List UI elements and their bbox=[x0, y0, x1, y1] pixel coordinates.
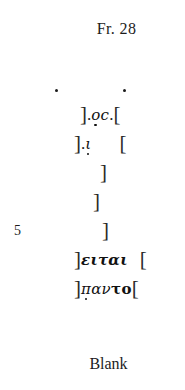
line-7-letters-bold: το bbox=[111, 280, 132, 298]
transcription-line-1: ].οc.[ bbox=[0, 100, 185, 129]
line-7-run: ]παντο[ bbox=[74, 274, 139, 304]
letter-lunate-sigma: c bbox=[101, 106, 110, 124]
line-7-letters-italic: αν bbox=[91, 280, 111, 298]
closing-bracket: ] bbox=[80, 102, 87, 126]
opening-bracket: [ bbox=[140, 247, 147, 271]
transcription-line-5: 5 ] bbox=[0, 216, 185, 245]
transcription-column: ].οc.[ ].ι[ ] ] 5 ] ]ειται[ ]παντο[ bbox=[0, 100, 185, 360]
transcription-line-4: ] bbox=[0, 187, 185, 216]
line-5-run: ] bbox=[102, 216, 109, 245]
line-4-run: ] bbox=[93, 187, 100, 216]
closing-bracket: ] bbox=[74, 276, 81, 300]
opening-bracket: [ bbox=[119, 131, 126, 155]
closing-bracket: ] bbox=[93, 189, 100, 213]
closing-bracket: ] bbox=[100, 160, 107, 184]
closing-bracket: ] bbox=[102, 218, 109, 242]
transcription-line-7: ]παντο[ bbox=[0, 274, 185, 303]
opening-bracket: [ bbox=[132, 276, 139, 300]
line-3-run: ] bbox=[100, 158, 107, 187]
ink-trace-dot-right bbox=[123, 89, 126, 92]
fragment-page: Fr. 28 ].οc.[ ].ι[ ] ] 5 ] ]ειται[ bbox=[0, 0, 185, 390]
closing-bracket: ] bbox=[74, 247, 81, 271]
line-1-run: ].οc.[ bbox=[80, 100, 121, 130]
closing-bracket: ] bbox=[74, 131, 81, 155]
opening-bracket: [ bbox=[114, 102, 121, 126]
line-6-run: ]ειται[ bbox=[74, 245, 147, 275]
letter-iota-uncertain: ι bbox=[85, 130, 91, 159]
fragment-heading: Fr. 28 bbox=[0, 20, 185, 38]
line-2-run: ].ι[ bbox=[74, 129, 126, 159]
transcription-line-3: ] bbox=[0, 158, 185, 187]
transcription-line-6: ]ειται[ bbox=[0, 245, 185, 274]
ink-trace-dot-left bbox=[55, 89, 58, 92]
letter-pi-uncertain: π bbox=[81, 275, 91, 304]
line-6-letters: ειται bbox=[81, 251, 128, 269]
transcription-line-2: ].ι[ bbox=[0, 129, 185, 158]
blank-notation: Blank bbox=[0, 355, 185, 373]
line-number-5: 5 bbox=[14, 216, 21, 245]
letter-omicron-uncertain: ο bbox=[91, 101, 100, 130]
